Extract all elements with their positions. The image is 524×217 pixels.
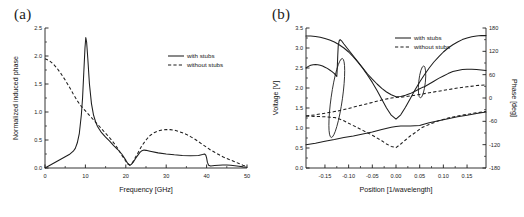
- panel-b-label: (b): [272, 6, 290, 23]
- y-tick-label: 3.5: [295, 25, 303, 31]
- y2-tick-label: -60: [489, 118, 497, 124]
- x-tick-label: -0.15: [319, 173, 332, 179]
- x-tick-label: 40: [203, 173, 209, 179]
- series-dashed: [306, 85, 486, 116]
- series-solid: [306, 40, 486, 97]
- y-tick-label: 0.0: [295, 165, 303, 171]
- legend-label: with stubs: [413, 34, 442, 41]
- y2-axis-title: Phase [deg]: [510, 79, 518, 117]
- y-tick-label: 0.0: [34, 165, 42, 171]
- series-solid: [306, 112, 486, 145]
- y2-tick-label: 120: [489, 48, 498, 54]
- panel-a-legend: with stubswithout stubs: [168, 52, 223, 68]
- y-axis-title: Voltage [V]: [272, 81, 280, 115]
- y-tick-label: 1.0: [295, 125, 303, 131]
- panel-a: (a) 010203040500.00.51.01.52.02.5Frequen…: [0, 0, 262, 217]
- panel-a-axes: 010203040500.00.51.01.52.02.5Frequency […: [12, 25, 250, 194]
- figure-container: (a) 010203040500.00.51.01.52.02.5Frequen…: [0, 0, 524, 217]
- legend-label: without stubs: [413, 43, 450, 50]
- y2-tick-label: 180: [489, 25, 498, 31]
- y-tick-label: 0.5: [295, 145, 303, 151]
- legend-label: with stubs: [186, 52, 215, 59]
- x-axis-title: Frequency [GHz]: [119, 186, 173, 194]
- series-solid: [45, 38, 247, 168]
- x-tick-label: 0.15: [462, 173, 473, 179]
- series-solid: [306, 36, 486, 120]
- x-axis-title: Position [1/wavelength]: [360, 186, 433, 194]
- y-axis-title: Normalized induced phase: [12, 56, 20, 140]
- y-tick-label: 2.0: [34, 53, 42, 59]
- panel-b-legend: with stubswithout stubs: [395, 34, 450, 50]
- x-tick-label: 50: [244, 173, 250, 179]
- panel-b-axes: -0.15-0.10-0.050.000.050.100.150.00.51.0…: [272, 25, 518, 194]
- x-tick-label: 0: [43, 173, 46, 179]
- panel-b-plot: -0.15-0.10-0.050.000.050.100.150.00.51.0…: [262, 0, 524, 217]
- legend-label: without stubs: [186, 61, 223, 68]
- x-tick-label: -0.10: [342, 173, 355, 179]
- y-tick-label: 3.0: [295, 45, 303, 51]
- x-tick-label: 20: [123, 173, 129, 179]
- y-tick-label: 2.5: [34, 25, 42, 31]
- y-tick-label: 0.5: [34, 137, 42, 143]
- x-tick-label: 30: [163, 173, 169, 179]
- panel-b: (b) -0.15-0.10-0.050.000.050.100.150.00.…: [262, 0, 524, 217]
- y-tick-label: 1.0: [34, 109, 42, 115]
- y2-tick-label: 60: [489, 72, 495, 78]
- x-tick-label: 0.00: [391, 173, 402, 179]
- y2-tick-label: -120: [489, 142, 500, 148]
- x-tick-label: 0.05: [414, 173, 425, 179]
- panel-a-label: (a): [14, 6, 32, 23]
- x-tick-label: -0.05: [366, 173, 379, 179]
- y-tick-label: 1.5: [34, 81, 42, 87]
- x-tick-label: 10: [82, 173, 88, 179]
- y2-tick-label: -180: [489, 165, 500, 171]
- x-tick-label: 0.10: [438, 173, 449, 179]
- y-tick-label: 1.5: [295, 105, 303, 111]
- panel-a-plot: 010203040500.00.51.01.52.02.5Frequency […: [0, 0, 262, 217]
- y-tick-label: 2.5: [295, 65, 303, 71]
- y-tick-label: 2.0: [295, 85, 303, 91]
- y2-tick-label: 0: [489, 95, 492, 101]
